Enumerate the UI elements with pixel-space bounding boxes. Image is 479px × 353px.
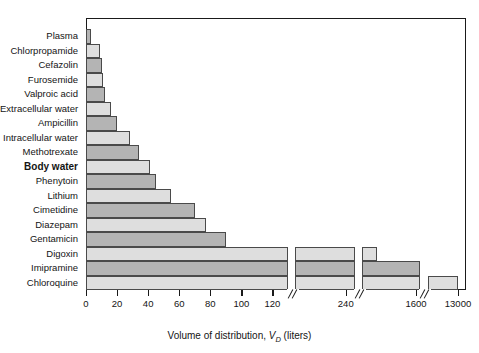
category-axis-labels: PlasmaChlorpropamideCefazolinFurosemideV…: [0, 29, 82, 290]
volume-of-distribution-chart: PlasmaChlorpropamideCefazolinFurosemideV…: [0, 0, 479, 353]
bar-segment: [86, 247, 288, 262]
axis-tick: [210, 290, 211, 296]
axis-tick-label: 1600: [405, 298, 426, 309]
bar-segment: [86, 232, 226, 247]
axis-tick: [458, 290, 459, 296]
category-label: Diazepam: [0, 218, 82, 233]
axis-break-mark: [354, 289, 366, 299]
axis-tick-label: 40: [143, 298, 154, 309]
bar-segment: [86, 29, 91, 44]
category-label: Phenytoin: [0, 174, 82, 189]
category-label: Furosemide: [0, 73, 82, 88]
bar-segment: [86, 174, 156, 189]
bar-segment: [86, 131, 130, 146]
axis-tick-label: 20: [112, 298, 123, 309]
axis-tick-label: 240: [338, 298, 354, 309]
category-label: Gentamicin: [0, 232, 82, 247]
bar-segment: [86, 44, 100, 59]
bar-segment: [295, 276, 355, 291]
axis-break-mark: [419, 289, 431, 299]
bar-row: [86, 73, 466, 88]
category-label: Chlorpropamide: [0, 44, 82, 59]
bar-row: [86, 29, 466, 44]
bar-segment: [362, 261, 420, 276]
bar-row: [86, 174, 466, 189]
x-axis-title-prefix: Volume of distribution,: [168, 330, 269, 341]
axis-tick-label: 0: [83, 298, 88, 309]
bar-row: [86, 189, 466, 204]
axis-tick-label: 80: [205, 298, 216, 309]
bar-row: [86, 145, 466, 160]
category-label: Ampicillin: [0, 116, 82, 131]
axis-tick-label: 13000: [445, 298, 471, 309]
bar-segment: [86, 73, 103, 88]
bar-row: [86, 44, 466, 59]
bar-row: [86, 203, 466, 218]
bar-segment: [86, 102, 111, 117]
bar-segment: [86, 218, 206, 233]
axis-tick: [86, 290, 87, 296]
category-label: Valproic acid: [0, 87, 82, 102]
axis-tick: [148, 290, 149, 296]
category-label: Body water: [0, 160, 82, 175]
category-label: Extracellular water: [0, 102, 82, 117]
bar-segment: [428, 276, 458, 291]
bar-row: [86, 58, 466, 73]
bar-segment: [86, 58, 102, 73]
bar-segment: [86, 87, 105, 102]
category-label: Digoxin: [0, 247, 82, 262]
category-label: Chloroquine: [0, 276, 82, 291]
axis-tick-label: 120: [265, 298, 281, 309]
bar-segment: [295, 261, 355, 276]
axis-tick: [241, 290, 242, 296]
bar-row: [86, 218, 466, 233]
axis-tick: [272, 290, 273, 296]
bar-row: [86, 87, 466, 102]
category-label: Cefazolin: [0, 58, 82, 73]
axis-break-mark: [287, 289, 299, 299]
bar-row: [86, 232, 466, 247]
bar-row: [86, 131, 466, 146]
bar-row: [86, 261, 466, 276]
bar-segment: [86, 160, 150, 175]
bar-segment: [86, 276, 288, 291]
axis-tick-label: 100: [233, 298, 249, 309]
bar-segment: [86, 145, 139, 160]
bar-segment: [86, 116, 117, 131]
category-label: Intracellular water: [0, 131, 82, 146]
axis-tick: [117, 290, 118, 296]
x-axis-title: Volume of distribution, VD (liters): [0, 330, 479, 344]
axis-tick-label: 60: [174, 298, 185, 309]
category-label: Imipramine: [0, 261, 82, 276]
axis-tick: [416, 290, 417, 296]
bar-segment: [362, 247, 377, 262]
x-axis-title-unit: (liters): [281, 330, 312, 341]
bar-row: [86, 102, 466, 117]
bar-row: [86, 247, 466, 262]
bar-segment: [295, 247, 355, 262]
value-axis: 020406080100120240160013000: [86, 290, 466, 291]
category-label: Methotrexate: [0, 145, 82, 160]
bar-row: [86, 276, 466, 291]
bar-row: [86, 116, 466, 131]
bar-segment: [362, 276, 420, 291]
bar-segment: [86, 261, 288, 276]
bars-layer: [86, 29, 466, 290]
category-label: Plasma: [0, 29, 82, 44]
bar-row: [86, 160, 466, 175]
axis-tick: [346, 290, 347, 296]
category-label: Cimetidine: [0, 203, 82, 218]
category-label: Lithium: [0, 189, 82, 204]
axis-tick: [179, 290, 180, 296]
bar-segment: [86, 203, 195, 218]
bar-segment: [86, 189, 171, 204]
